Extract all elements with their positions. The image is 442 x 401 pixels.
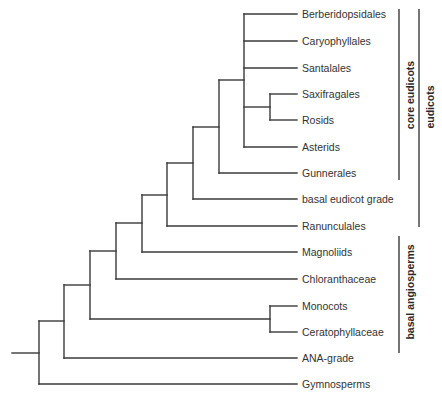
tip-label-santalales: Santalales <box>302 62 351 74</box>
tip-label-ana-grade: ANA-grade <box>302 352 354 364</box>
tip-label-ceratophyllaceae: Ceratophyllaceae <box>302 326 384 338</box>
tip-label-monocots: Monocots <box>302 300 348 312</box>
tip-label-asterids: Asterids <box>302 141 340 153</box>
phylogenetic-tree: BerberidopsidalesCaryophyllalesSantalale… <box>0 0 442 401</box>
tip-label-basal-eudicot-grade: basal eudicot grade <box>302 193 394 205</box>
tree-branches <box>12 14 297 384</box>
group-label-core-eudicots: core eudicots <box>404 61 416 129</box>
tip-label-rosids: Rosids <box>302 114 334 126</box>
group-label-basal-angiosperms: basal angiosperms <box>404 244 416 339</box>
tip-label-berberidopsidales: Berberidopsidales <box>302 8 386 20</box>
tip-label-gymnosperms: Gymnosperms <box>302 378 370 390</box>
tip-label-gunnerales: Gunnerales <box>302 167 356 179</box>
tip-labels: BerberidopsidalesCaryophyllalesSantalale… <box>302 8 394 390</box>
tip-label-magnoliids: Magnoliids <box>302 246 352 258</box>
tip-label-chloranthaceae: Chloranthaceae <box>302 273 376 285</box>
tip-label-ranunculales: Ranunculales <box>302 220 366 232</box>
group-label-eudicots: eudicots <box>424 85 436 128</box>
group-brackets: core eudicotseudicotsbasal angiosperms <box>399 9 436 353</box>
tip-label-caryophyllales: Caryophyllales <box>302 35 371 47</box>
tip-label-saxifragales: Saxifragales <box>302 88 360 100</box>
